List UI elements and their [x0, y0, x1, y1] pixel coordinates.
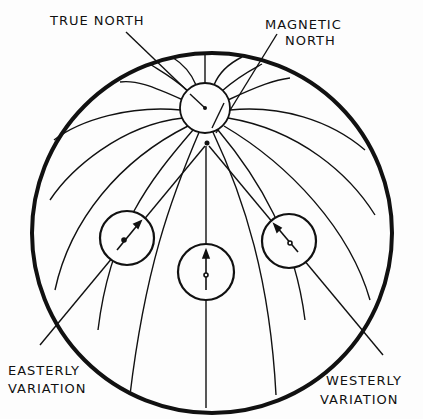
- globe-illustration: [0, 0, 423, 419]
- magnetic-north-point: [205, 141, 210, 146]
- true-north-label: TRUE NORTH: [50, 12, 145, 29]
- magnetic-north-label-line1: MAGNETIC: [265, 16, 342, 33]
- easterly-variation-label-line1: EASTERLY: [8, 362, 80, 379]
- magnetic-variation-diagram: TRUE NORTH MAGNETIC NORTH EASTERLY VARIA…: [0, 0, 423, 419]
- westerly-variation-label-line1: WESTERLY: [326, 372, 402, 389]
- magnetic-north-label-line2: NORTH: [285, 32, 336, 49]
- easterly-variation-label-line2: VARIATION: [8, 380, 86, 397]
- westerly-variation-label-line2: VARIATION: [320, 391, 398, 408]
